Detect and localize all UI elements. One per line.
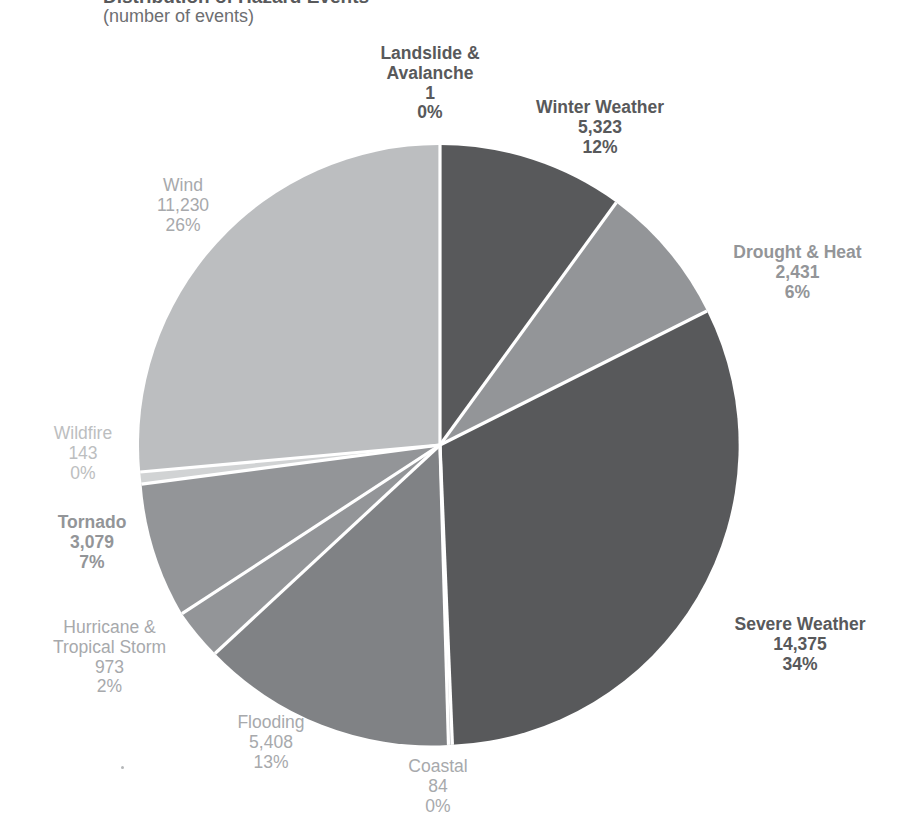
label-tornado: Tornado 3,079 7%: [22, 513, 162, 572]
label-severe-weather: Severe Weather 14,375 34%: [705, 615, 895, 674]
chart-canvas: Distribution of Hazard Events (number of…: [0, 0, 902, 830]
label-hurricane-tropical-storm-value: 973: [17, 658, 202, 678]
label-landslide-avalanche-line2: Avalanche: [340, 64, 520, 84]
label-flooding-percent: 13%: [196, 753, 346, 773]
label-hurricane-tropical-storm: Hurricane & Tropical Storm 973 2%: [17, 618, 202, 697]
label-wildfire-percent: 0%: [18, 464, 148, 484]
label-hurricane-tropical-storm-line2: Tropical Storm: [17, 638, 202, 658]
page-artifact-dot: [121, 766, 124, 769]
label-winter-weather-value: 5,323: [505, 118, 695, 138]
label-drought-heat-value: 2,431: [700, 263, 895, 283]
label-drought-heat: Drought & Heat 2,431 6%: [700, 243, 895, 302]
label-hurricane-tropical-storm-line1: Hurricane &: [17, 618, 202, 638]
label-drought-heat-percent: 6%: [700, 283, 895, 303]
label-winter-weather-percent: 12%: [505, 138, 695, 158]
label-severe-weather-name: Severe Weather: [705, 615, 895, 635]
label-severe-weather-value: 14,375: [705, 635, 895, 655]
label-landslide-avalanche-line1: Landslide &: [340, 44, 520, 64]
label-coastal-value: 84: [378, 777, 498, 797]
label-tornado-value: 3,079: [22, 533, 162, 553]
label-tornado-percent: 7%: [22, 553, 162, 573]
label-wind-value: 11,230: [108, 196, 258, 216]
label-flooding-name: Flooding: [196, 713, 346, 733]
label-flooding-value: 5,408: [196, 733, 346, 753]
label-wildfire-name: Wildfire: [18, 424, 148, 444]
label-wildfire-value: 143: [18, 444, 148, 464]
label-landslide-avalanche: Landslide & Avalanche 1 0%: [340, 44, 520, 123]
label-coastal-percent: 0%: [378, 797, 498, 817]
label-coastal: Coastal 84 0%: [378, 757, 498, 816]
label-drought-heat-name: Drought & Heat: [700, 243, 895, 263]
label-wind-name: Wind: [108, 176, 258, 196]
label-winter-weather-name: Winter Weather: [505, 98, 695, 118]
label-coastal-name: Coastal: [378, 757, 498, 777]
label-wildfire: Wildfire 143 0%: [18, 424, 148, 483]
label-winter-weather: Winter Weather 5,323 12%: [505, 98, 695, 157]
label-wind-percent: 26%: [108, 216, 258, 236]
label-hurricane-tropical-storm-percent: 2%: [17, 677, 202, 697]
label-flooding: Flooding 5,408 13%: [196, 713, 346, 772]
label-severe-weather-percent: 34%: [705, 655, 895, 675]
pie-chart: [0, 0, 902, 830]
label-tornado-name: Tornado: [22, 513, 162, 533]
label-wind: Wind 11,230 26%: [108, 176, 258, 235]
label-landslide-avalanche-value: 1: [340, 84, 520, 104]
label-landslide-avalanche-percent: 0%: [340, 103, 520, 123]
